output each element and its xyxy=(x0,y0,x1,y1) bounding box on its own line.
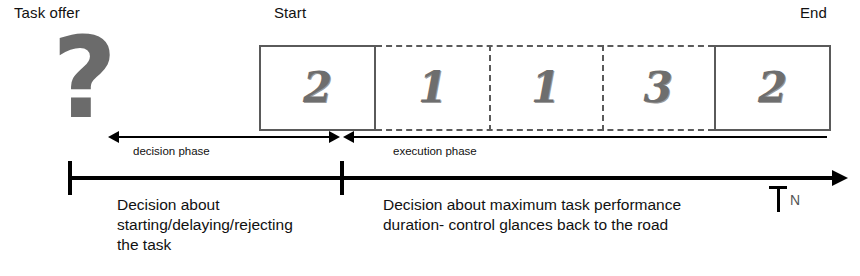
timeline-axis xyxy=(68,176,838,180)
axis-tick-middle xyxy=(340,161,344,195)
arrow-head-right-icon xyxy=(329,131,340,143)
task-box-strip: 2 1 1 3 2 xyxy=(259,45,831,131)
axis-end-label: N xyxy=(790,192,800,208)
axis-tick-end xyxy=(777,186,780,212)
decision-phase-caption: Decision about starting/delaying/rejecti… xyxy=(117,195,293,255)
axis-tick-start xyxy=(68,161,72,195)
task-box: 1 xyxy=(489,45,602,131)
execution-phase-caption: Decision about maximum task performance … xyxy=(383,195,681,235)
decision-phase-arrow xyxy=(108,130,340,144)
task-box: 2 xyxy=(259,45,376,131)
question-mark-icon: ? xyxy=(52,22,114,134)
timeline-diagram: Task offer Start End ? 2 1 1 3 2 decisio… xyxy=(0,0,860,276)
task-box-value: 1 xyxy=(418,67,447,109)
task-box-value: 2 xyxy=(303,67,332,109)
timeline-arrow-head-icon xyxy=(832,170,848,186)
execution-phase-label: execution phase xyxy=(393,145,477,157)
task-box: 1 xyxy=(376,45,489,131)
task-box: 3 xyxy=(602,45,714,131)
task-box-value: 1 xyxy=(531,67,560,109)
decision-phase-label: decision phase xyxy=(133,145,210,157)
task-box-value: 2 xyxy=(758,67,787,109)
label-end: End xyxy=(800,4,827,21)
arrow-shaft xyxy=(116,136,332,138)
task-box: 2 xyxy=(714,45,831,131)
execution-phase-arrow xyxy=(343,130,835,144)
arrow-shaft xyxy=(351,136,827,138)
task-box-value: 3 xyxy=(643,67,672,109)
label-start: Start xyxy=(274,4,306,21)
